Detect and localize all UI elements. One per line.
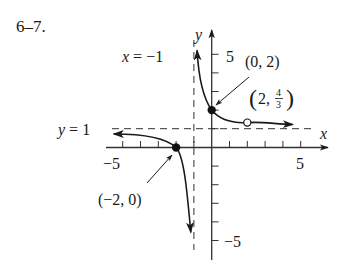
point-label-neg2-0: (−2, 0) [98, 191, 142, 209]
graph-svg: 6–7. [0, 0, 343, 269]
svg-text:(: ( [249, 85, 257, 111]
horizontal-asymptote-label: y = 1 [56, 121, 90, 139]
problem-number: 6–7. [16, 17, 46, 36]
x-axis-label: x [319, 125, 327, 142]
leader-arrow-0-2 [216, 77, 249, 105]
x-tick-label-neg5: −5 [103, 155, 120, 172]
y-tick-label-neg5: −5 [224, 233, 241, 250]
x-tick-label-5: 5 [296, 155, 304, 172]
svg-text:2,: 2, [258, 90, 270, 107]
hole-point-2-4-3 [244, 119, 251, 126]
point-neg2-0 [172, 143, 180, 151]
point-label-2-4-3: ( 2, 4 3 ) [249, 85, 294, 111]
point-0-2 [208, 106, 216, 114]
y-axis-label: y [193, 26, 203, 44]
vertical-asymptote-label: x = −1 [121, 48, 163, 65]
y-tick-label-5: 5 [226, 48, 234, 65]
svg-text:4: 4 [276, 87, 281, 98]
point-label-0-2: (0, 2) [245, 53, 280, 71]
svg-text:3: 3 [276, 99, 281, 110]
leader-arrow-neg2-0 [147, 155, 172, 183]
svg-text:): ) [286, 85, 294, 111]
